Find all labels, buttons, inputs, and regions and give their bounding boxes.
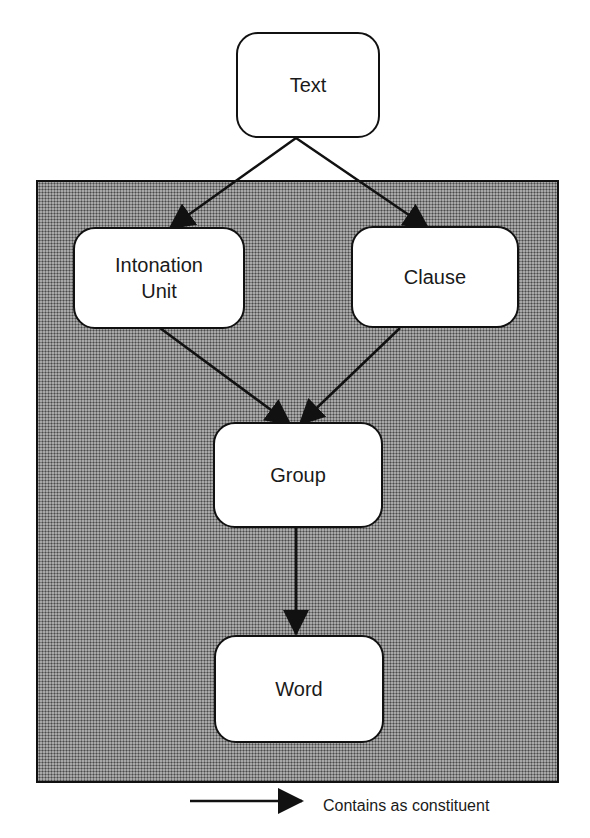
node-intonation-unit-label: Intonation Unit	[115, 252, 203, 304]
edge-text-intonation-unit	[170, 138, 296, 228]
node-clause-label: Clause	[404, 264, 466, 290]
edge-text-clause	[296, 138, 428, 228]
legend-label: Contains as constituent	[323, 797, 489, 815]
edge-intonation-unit-group	[160, 328, 290, 424]
node-text: Text	[236, 32, 380, 138]
node-word: Word	[214, 635, 384, 743]
node-intonation-unit: Intonation Unit	[73, 227, 245, 329]
node-clause: Clause	[351, 226, 519, 328]
node-group: Group	[213, 422, 383, 528]
edge-clause-group	[300, 328, 400, 424]
node-word-label: Word	[275, 676, 322, 702]
node-text-label: Text	[290, 72, 327, 98]
node-group-label: Group	[270, 462, 326, 488]
